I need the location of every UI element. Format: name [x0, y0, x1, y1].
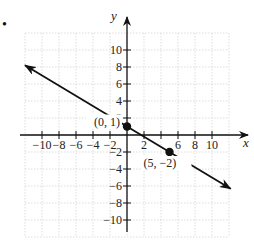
y-tick-label: 10: [110, 43, 122, 57]
x-tick-label: −10: [33, 138, 52, 152]
y-tick-label: −6: [109, 179, 122, 193]
data-point: [165, 148, 173, 156]
y-tick-label: −4: [109, 162, 122, 176]
y-axis-label: y: [109, 8, 117, 23]
x-tick-label: 2: [141, 138, 147, 152]
x-tick-label: 8: [192, 138, 198, 152]
data-point: [123, 122, 131, 130]
y-tick-label: −2: [109, 145, 122, 159]
point-label: (5, −2): [144, 156, 177, 170]
y-tick-label: 8: [116, 60, 122, 74]
x-axis-label: x: [242, 135, 249, 150]
x-tick-label: −8: [53, 138, 66, 152]
x-tick-label: 6: [175, 138, 181, 152]
x-tick-label: −4: [87, 138, 100, 152]
y-tick-label: −10: [103, 213, 122, 227]
axes: xy: [20, 8, 249, 232]
x-tick-label: −6: [70, 138, 83, 152]
y-tick-label: −8: [109, 196, 122, 210]
y-tick-label: 6: [116, 77, 122, 91]
coordinate-graph: xy −10−8−6−4−226810108642−2−4−6−8−10 (0,…: [0, 0, 254, 247]
y-tick-label: 4: [116, 94, 122, 108]
x-tick-label: 10: [206, 138, 218, 152]
point-label: (0, 1): [94, 115, 120, 129]
